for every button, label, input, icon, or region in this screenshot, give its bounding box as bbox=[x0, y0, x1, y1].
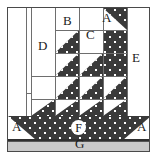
piece-b bbox=[55, 8, 79, 30]
hst-r3-c3 bbox=[79, 76, 103, 99]
hst-dark-half bbox=[79, 76, 103, 99]
grid-line-v1 bbox=[26, 8, 27, 116]
grid-line-h3 bbox=[31, 76, 127, 77]
hst-dark-half bbox=[103, 8, 127, 30]
label-f-badge: F bbox=[71, 120, 86, 135]
hst-r4-c2 bbox=[55, 99, 79, 116]
hst-r2-c3 bbox=[79, 53, 103, 76]
piece-e bbox=[127, 8, 150, 116]
quilt-block-diagram: A B C D E A A G F bbox=[7, 7, 150, 152]
grid-line-h1 bbox=[55, 30, 127, 31]
hst-dark-half bbox=[55, 99, 79, 116]
hst-r3-c4 bbox=[103, 76, 127, 99]
hst-dark-half bbox=[79, 99, 103, 116]
hst-dark-half bbox=[103, 76, 127, 99]
piece-a-right bbox=[123, 116, 150, 140]
hst-a-top bbox=[103, 8, 127, 30]
piece-a-left bbox=[8, 116, 36, 140]
sail-solid-r1-c4 bbox=[103, 30, 127, 53]
grid-line-v6 bbox=[127, 8, 128, 116]
hst-dark-half bbox=[55, 53, 79, 76]
hst-dark-half bbox=[79, 53, 103, 76]
hst-r4-c1 bbox=[31, 99, 55, 116]
hst-r1-c2 bbox=[55, 30, 79, 53]
hst-r4-c4 bbox=[103, 99, 127, 116]
label-f: F bbox=[75, 122, 82, 134]
grid-line-h5 bbox=[31, 99, 127, 100]
hst-r3-c2 bbox=[55, 76, 79, 99]
hst-dark-half bbox=[103, 99, 127, 116]
piece-g-ground bbox=[8, 141, 150, 152]
hst-r2-c2 bbox=[55, 53, 79, 76]
hst-dark-half bbox=[55, 76, 79, 99]
hst-r4-c3 bbox=[79, 99, 103, 116]
piece-background-left bbox=[8, 8, 26, 116]
hst-dark-half bbox=[31, 99, 55, 116]
grid-line-h2 bbox=[55, 53, 127, 54]
grid-line-h4 bbox=[26, 93, 31, 94]
sail-solid-r2-c4 bbox=[103, 53, 127, 76]
hst-dark-half bbox=[55, 30, 79, 53]
